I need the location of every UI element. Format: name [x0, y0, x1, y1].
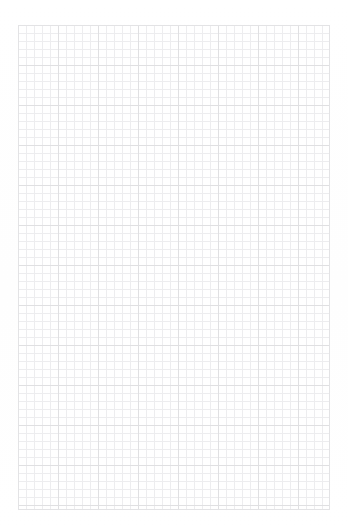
grid-paper-page [0, 0, 348, 531]
top-margin [0, 0, 348, 25]
right-margin [330, 25, 348, 510]
bottom-margin [0, 510, 348, 531]
graph-paper-grid [18, 25, 330, 510]
left-margin [0, 25, 18, 510]
